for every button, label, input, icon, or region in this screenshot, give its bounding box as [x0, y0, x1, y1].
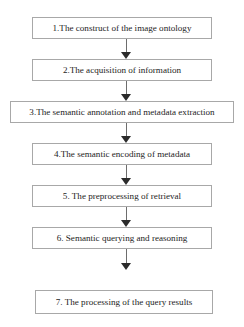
- arrow-shaft: [126, 165, 127, 179]
- arrow-shaft: [126, 81, 127, 95]
- flow-connector-4-to-5: [121, 165, 132, 185]
- down-arrow-icon: [121, 178, 131, 185]
- arrow-shaft: [126, 39, 127, 53]
- flow-node-6: 6. Semantic querying and reasoning: [32, 227, 212, 249]
- down-arrow-icon: [121, 136, 131, 143]
- flow-connector-3-to-4: [121, 123, 132, 143]
- flow-node-7: 7. The processing of the query results: [35, 290, 213, 314]
- down-arrow-icon: [121, 52, 131, 59]
- flow-node-2: 2.The acquisition of information: [32, 59, 212, 81]
- flow-connector-5-to-6: [121, 207, 132, 227]
- flow-node-1: 1.The construct of the image ontology: [32, 17, 212, 39]
- down-arrow-icon: [121, 220, 131, 227]
- flow-node-4: 4.The semantic encoding of metadata: [32, 143, 212, 165]
- down-arrow-icon: [121, 94, 131, 101]
- arrow-shaft: [126, 123, 127, 137]
- flow-connector-1-to-2: [121, 39, 132, 59]
- arrow-shaft: [126, 249, 127, 264]
- flow-node-5: 5. The preprocessing of retrieval: [32, 185, 212, 207]
- flow-connector-2-to-3: [121, 81, 132, 101]
- down-arrow-icon: [121, 263, 131, 270]
- flow-connector-6-to-7: [121, 249, 132, 271]
- flow-node-3: 3.The semantic annotation and metadata e…: [10, 101, 234, 123]
- arrow-shaft: [126, 207, 127, 221]
- flowchart-diagram: 1.The construct of the image ontology 2.…: [0, 0, 244, 327]
